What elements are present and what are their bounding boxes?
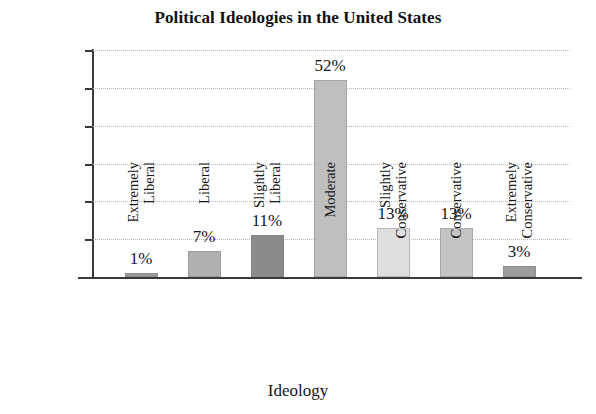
chart-title: Political Ideologies in the United State… — [0, 8, 596, 28]
x-axis-title: Ideology — [0, 381, 596, 401]
y-axis-tick — [85, 239, 93, 241]
bar-chart: Political Ideologies in the United State… — [0, 0, 596, 414]
y-axis-tick — [85, 164, 93, 166]
x-axis-category-label: ExtremelyConservative — [503, 162, 536, 282]
x-axis-category-label: ExtremelyLiberal — [125, 162, 158, 282]
x-axis-label-line: Moderate — [322, 162, 338, 282]
y-axis-tick — [85, 201, 93, 203]
x-axis-category-label: SlightlyConservative — [377, 162, 410, 282]
y-axis-tick — [85, 88, 93, 90]
x-axis-label-line: Conservative — [393, 162, 409, 282]
x-axis-label-line: Conservative — [519, 162, 535, 282]
x-axis-category-label: Conservative — [448, 162, 481, 282]
x-axis-label-line: Liberal — [267, 162, 283, 282]
x-axis-category-label: SlightlyLiberal — [251, 162, 284, 282]
bar-value-label: 52% — [295, 56, 365, 76]
x-axis-label-line: Liberal — [196, 162, 212, 282]
x-axis-label-line: Conservative — [448, 162, 464, 282]
gridline — [92, 50, 570, 51]
y-axis-tick — [85, 50, 93, 52]
x-axis-label-line: Liberal — [141, 162, 157, 282]
x-axis-label-line: Extremely — [125, 162, 141, 282]
x-axis-label-line: Slightly — [251, 162, 267, 282]
x-axis-category-label: Moderate — [322, 162, 355, 282]
y-axis-tick — [85, 126, 93, 128]
x-axis-category-label: Liberal — [196, 162, 229, 282]
x-axis-label-line: Extremely — [503, 162, 519, 282]
x-axis-label-line: Slightly — [377, 162, 393, 282]
